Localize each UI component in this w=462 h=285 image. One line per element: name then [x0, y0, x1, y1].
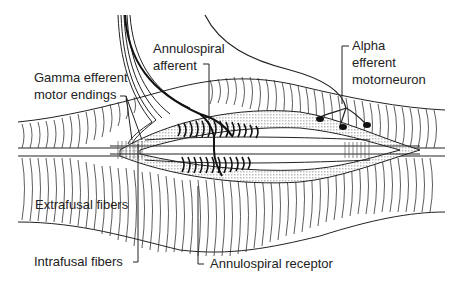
label-alpha-efferent-motorneuron: Alpha efferent motorneuron	[352, 37, 426, 88]
label-gamma-efferent-motor-endings: Gamma efferent motor endings	[34, 69, 128, 103]
label-annulospiral-afferent: Annulospiral afferent	[153, 40, 225, 74]
label-intrafusal-fibers: Intrafusal fibers	[34, 253, 123, 270]
spindle-capsule	[120, 111, 420, 183]
label-extrafusal-fibers: Extrafusal fibers	[35, 196, 128, 213]
label-annulospiral-receptor: Annulospiral receptor	[210, 255, 333, 272]
